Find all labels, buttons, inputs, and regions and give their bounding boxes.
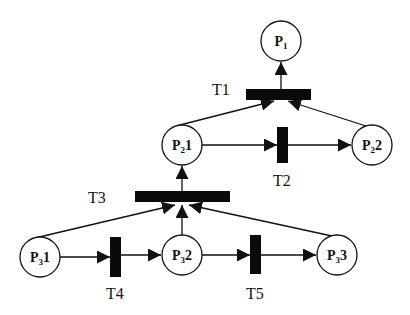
label-t3: T3: [88, 189, 106, 206]
transition-t2: [277, 127, 288, 163]
label-t1: T1: [212, 81, 230, 98]
arcs: [35, 62, 366, 257]
arc-p31-t3: [35, 205, 175, 238]
place-p2-2: P22: [352, 125, 392, 165]
place-p3-3: P33: [317, 235, 357, 275]
label-t4: T4: [106, 285, 124, 302]
transition-t4: [110, 237, 121, 277]
arc-p21-t1: [176, 101, 274, 126]
place-p2-1: P21: [162, 125, 202, 165]
transition-t1: [246, 89, 311, 100]
arc-p22-t1: [288, 101, 366, 126]
place-p1: P1: [261, 21, 301, 61]
place-p3-2: P32: [162, 235, 202, 275]
petri-net-diagram: T1 T2 T3 T4 T5 P1 P21 P22 P31 P32 P33: [0, 0, 410, 315]
transition-t5: [250, 235, 261, 274]
label-t5: T5: [246, 285, 264, 302]
places: P1 P21 P22 P31 P32 P33: [20, 21, 392, 277]
arc-p33-t3: [189, 205, 332, 236]
transition-t3: [135, 191, 230, 202]
label-t2: T2: [273, 172, 291, 189]
place-p3-1: P31: [20, 237, 60, 277]
